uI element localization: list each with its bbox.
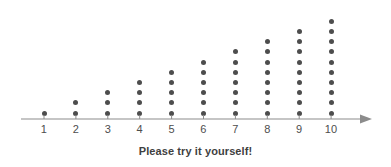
tick-label-8: 8 — [255, 123, 279, 135]
data-dot — [265, 111, 270, 116]
data-dot — [265, 60, 270, 65]
data-dot — [265, 80, 270, 85]
data-dot — [329, 19, 334, 24]
data-dot — [297, 60, 302, 65]
data-dot — [137, 100, 142, 105]
data-dot — [297, 29, 302, 34]
data-dot — [329, 60, 334, 65]
data-dot — [201, 60, 206, 65]
data-dot — [297, 90, 302, 95]
data-dot — [297, 39, 302, 44]
data-dot — [169, 100, 174, 105]
data-dot — [201, 100, 206, 105]
data-dot — [233, 111, 238, 116]
data-dot — [265, 100, 270, 105]
data-dot — [233, 60, 238, 65]
data-dot — [329, 49, 334, 54]
data-dot — [201, 80, 206, 85]
data-dot — [265, 70, 270, 75]
data-dot — [105, 111, 110, 116]
data-dot — [329, 111, 334, 116]
data-dot — [297, 100, 302, 105]
data-dot — [329, 90, 334, 95]
data-dot — [329, 80, 334, 85]
data-dot — [265, 39, 270, 44]
data-dot — [329, 100, 334, 105]
data-dot — [169, 80, 174, 85]
data-dot — [201, 70, 206, 75]
data-dot — [105, 90, 110, 95]
data-dot — [137, 111, 142, 116]
data-dot — [233, 70, 238, 75]
tick-label-5: 5 — [160, 123, 184, 135]
tick-label-4: 4 — [128, 123, 152, 135]
data-dot — [265, 90, 270, 95]
data-dot — [42, 111, 47, 116]
data-dot — [297, 111, 302, 116]
data-dot — [137, 80, 142, 85]
plot-area — [0, 0, 391, 167]
data-dot — [329, 39, 334, 44]
data-dot — [73, 111, 78, 116]
tick-label-9: 9 — [287, 123, 311, 135]
data-dot — [201, 111, 206, 116]
data-dot — [169, 111, 174, 116]
tick-label-7: 7 — [223, 123, 247, 135]
data-dot — [73, 100, 78, 105]
chart-caption: Please try it yourself! — [0, 145, 391, 157]
data-dot — [265, 49, 270, 54]
data-dot — [297, 70, 302, 75]
tick-label-3: 3 — [96, 123, 120, 135]
data-dot — [329, 70, 334, 75]
tick-label-1: 1 — [32, 123, 56, 135]
data-dot — [169, 90, 174, 95]
data-dot — [329, 29, 334, 34]
data-dot — [297, 80, 302, 85]
tick-label-6: 6 — [192, 123, 216, 135]
data-dot — [233, 90, 238, 95]
data-dot — [137, 90, 142, 95]
data-dot — [297, 49, 302, 54]
data-dot — [233, 80, 238, 85]
data-dot — [201, 90, 206, 95]
data-dot — [233, 49, 238, 54]
data-dot — [233, 100, 238, 105]
data-dot — [105, 100, 110, 105]
tick-label-2: 2 — [64, 123, 88, 135]
dot-plot-figure: 12345678910 Please try it yourself! — [0, 0, 391, 167]
data-dot — [169, 70, 174, 75]
tick-label-10: 10 — [319, 123, 343, 135]
